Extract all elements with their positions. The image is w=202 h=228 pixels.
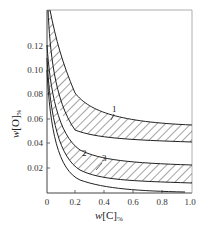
x-tick-0.2: 0.2 [69,197,80,207]
x-tick-0: 0 [45,197,50,207]
y-tick-0.02: 0.02 [27,163,43,173]
x-tick-1.0: 1.0 [184,197,196,207]
x-tick-0.8: 0.8 [156,197,168,207]
x-tick-0.6: 0.6 [127,197,139,207]
y-tick-0.12: 0.12 [27,41,43,51]
y-tick-0.10: 0.10 [27,65,43,75]
curve-label-1: 1 [112,104,117,114]
y-tick-0.06: 0.06 [27,114,43,124]
y-tick-0.08: 0.08 [27,89,43,99]
curve-label-3: 3 [102,153,107,163]
y-axis-title: w[O]% [9,109,23,138]
x-axis-title: w[C]% [95,209,123,223]
y-axis-tick-labels: 0.02 0.04 0.06 0.08 0.10 0.12 [27,41,43,173]
y-tick-0.04: 0.04 [27,138,43,148]
curve-label-2: 2 [82,148,87,158]
x-tick-0.4: 0.4 [98,197,110,207]
chart: 0.02 0.04 0.06 0.08 0.10 0.12 0 0.2 0.4 … [0,0,202,228]
x-axis-tick-labels: 0 0.2 0.4 0.6 0.8 1.0 [45,197,196,207]
